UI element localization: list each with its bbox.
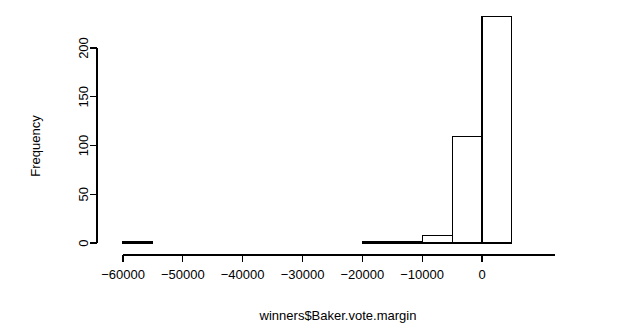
histogram-plot: −60000−50000−40000−30000−20000−100000 05…	[0, 0, 625, 329]
plot-canvas: −60000−50000−40000−30000−20000−100000 05…	[0, 0, 625, 329]
x-axis-tick-label: −50000	[161, 267, 205, 282]
histogram-bar	[123, 242, 153, 243]
x-axis-tick-label: −60000	[101, 267, 145, 282]
x-axis-tick-label: −40000	[221, 267, 265, 282]
x-axis-title: winners$Baker.vote.margin	[259, 308, 417, 323]
histogram-bar	[392, 242, 422, 243]
histogram-bar	[422, 235, 452, 243]
x-axis-tick-label: −20000	[340, 267, 384, 282]
y-axis-tick-label: 50	[76, 187, 91, 201]
histogram-bar	[362, 242, 392, 243]
y-axis-tick-label: 100	[76, 135, 91, 157]
x-axis-tick-label: −30000	[281, 267, 325, 282]
histogram-bar	[482, 17, 512, 243]
y-axis-tick-label: 200	[76, 37, 91, 59]
y-axis-title: Frequency	[28, 115, 43, 177]
x-axis-tick-label: −10000	[400, 267, 444, 282]
histogram-bar	[452, 137, 482, 243]
x-axis-tick-label: 0	[478, 267, 485, 282]
y-axis-tick-label: 150	[76, 86, 91, 108]
y-axis-tick-label: 0	[76, 239, 91, 246]
